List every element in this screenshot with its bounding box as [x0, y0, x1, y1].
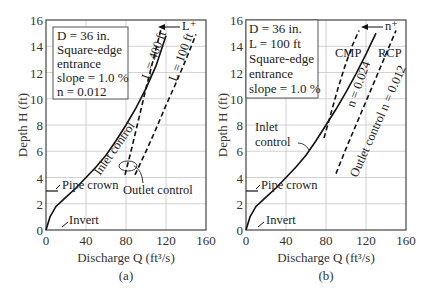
y-tick-label: 12 — [230, 66, 243, 81]
label-pipe-crown: Pipe crown — [261, 178, 318, 192]
leader-line — [298, 143, 309, 150]
x-tick-label: 0 — [43, 233, 50, 248]
x-axis-label: Discharge Q (ft³/s) — [277, 250, 375, 265]
box-line: slope = 1.0 % — [249, 81, 321, 96]
figure: 040801201600246810121416 D = 36 in. Squa… — [0, 0, 435, 292]
box-line: D = 36 in. — [57, 28, 110, 43]
label-outlet-control: Outlet control — [123, 183, 193, 197]
arrow-icon — [258, 222, 264, 227]
x-tick-label: 80 — [120, 233, 133, 248]
box-line: D = 36 in. — [249, 21, 302, 36]
y-axis-label: Depth H (ft) — [215, 93, 230, 157]
info-box: D = 36 in. L = 100 ft Square-edge entran… — [246, 20, 321, 98]
box-line: Square-edge — [249, 51, 314, 66]
y-tick-label: 10 — [230, 92, 243, 107]
label-invert: Invert — [266, 213, 296, 227]
y-tick-label: 16 — [30, 13, 44, 28]
arrow-head-icon — [158, 24, 165, 30]
label-l100: L = 100 ft — [166, 31, 196, 83]
label-pipe-crown: Pipe crown — [62, 178, 119, 192]
x-tick-label: 120 — [156, 233, 176, 248]
box-line: entrance — [249, 66, 293, 81]
arrow-icon — [56, 185, 60, 189]
y-tick-label: 16 — [230, 13, 244, 28]
box-line: slope = 1.0 % — [57, 70, 129, 85]
y-tick-label: 2 — [237, 197, 244, 212]
label-cmp: CMP — [335, 46, 361, 60]
y-tick-label: 0 — [37, 223, 44, 238]
panel-a-chart: 040801201600246810121416 D = 36 in. Squa… — [15, 13, 216, 283]
box-line: entrance — [57, 56, 101, 71]
x-tick-label: 160 — [396, 233, 416, 248]
x-tick-label: 160 — [196, 233, 216, 248]
panel-label: (b) — [318, 268, 333, 283]
box-line: L = 100 ft — [249, 36, 301, 51]
y-axis-label: Depth H (ft) — [15, 93, 30, 157]
box-line: n = 0.012 — [57, 84, 107, 99]
y-tick-label: 8 — [237, 118, 244, 133]
x-tick-label: 0 — [243, 233, 250, 248]
label-control: control — [255, 135, 291, 149]
x-tick-label: 120 — [356, 233, 376, 248]
y-tick-label: 2 — [37, 197, 44, 212]
label-lplus: L⁺ — [182, 19, 196, 33]
label-rcp: RCP — [378, 46, 402, 60]
arrow-head-icon — [361, 24, 368, 30]
info-box: D = 36 in. Square-edge entrance slope = … — [53, 27, 129, 99]
y-tick-label: 4 — [237, 171, 244, 186]
y-tick-label: 10 — [30, 92, 43, 107]
y-tick-label: 14 — [30, 39, 44, 54]
y-tick-label: 6 — [237, 144, 244, 159]
panel-b-chart: 040801201600246810121416 D = 36 in. L = … — [215, 13, 416, 283]
y-tick-label: 14 — [230, 39, 244, 54]
label-invert: Invert — [69, 213, 99, 227]
box-line: Square-edge — [57, 42, 122, 57]
label-n024: n = 0.024 — [344, 59, 374, 109]
x-axis-label: Discharge Q (ft³/s) — [77, 250, 175, 265]
y-tick-label: 4 — [37, 171, 44, 186]
y-tick-label: 8 — [37, 118, 44, 133]
arrow-icon — [62, 222, 68, 227]
y-tick-label: 12 — [30, 66, 43, 81]
label-inlet: Inlet — [255, 120, 278, 134]
x-tick-label: 40 — [280, 233, 293, 248]
label-nplus: n⁺ — [385, 19, 398, 33]
y-tick-label: 6 — [37, 144, 44, 159]
panel-label: (a) — [119, 268, 133, 283]
x-tick-label: 80 — [320, 233, 333, 248]
label-l400: L = 400 ft — [139, 29, 169, 81]
y-tick-label: 0 — [237, 223, 244, 238]
arrow-icon — [256, 185, 260, 189]
x-tick-label: 40 — [80, 233, 93, 248]
